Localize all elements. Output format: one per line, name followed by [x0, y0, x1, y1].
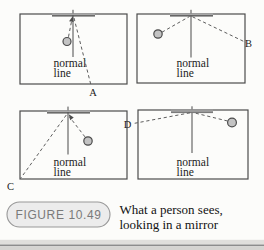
reflected-ray [193, 17, 247, 43]
page-edge-band-lower [0, 246, 264, 250]
panel-box [20, 111, 127, 179]
caption-text-line1: What a person sees, [120, 202, 223, 217]
reflected-ray [134, 113, 191, 124]
ray-label: C [7, 181, 14, 192]
incident-ray [69, 20, 72, 37]
ray-label: D [124, 119, 132, 130]
mirror-panel-bottom-right: normal line D [124, 106, 248, 179]
caption-text-line2: looking in a mirror [120, 217, 219, 232]
mirror-panel-bottom-left: normal line C [7, 107, 127, 192]
normal-line-label: line [177, 67, 194, 79]
mirror-panel-top-left: normal line A [20, 10, 127, 98]
eye-marker [228, 118, 237, 127]
incident-ray [194, 113, 228, 121]
incident-ray [70, 117, 85, 137]
page-edge-band-upper [0, 240, 264, 245]
mirror-panel-top-right: normal line B [137, 10, 252, 83]
eye-marker [84, 137, 92, 145]
textbook-figure-10-49: normal line A normal line B normal line … [0, 0, 264, 250]
normal-line-label: line [54, 166, 71, 178]
reflected-ray [74, 18, 91, 87]
page-edge [0, 240, 264, 250]
incident-ray [162, 17, 190, 33]
figure-number-label: FIGURE 10.49 [16, 208, 102, 222]
ray-label: B [245, 38, 252, 49]
ray-label: A [89, 87, 97, 98]
eye-marker [154, 30, 162, 38]
eye-marker [63, 38, 71, 46]
normal-line-label: line [177, 166, 194, 178]
figure-caption: FIGURE 10.49 What a person sees, looking… [7, 202, 223, 232]
mirror-ray-diagram: normal line A normal line B normal line … [0, 0, 264, 250]
normal-line-label: line [54, 67, 71, 79]
